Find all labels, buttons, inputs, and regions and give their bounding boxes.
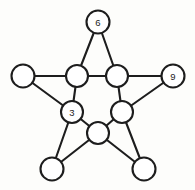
graph-node-inner-right[interactable]	[111, 101, 133, 123]
node-circle[interactable]	[133, 158, 156, 181]
node-circle[interactable]	[41, 158, 64, 181]
star-puzzle-diagram: 693	[0, 0, 195, 190]
node-layer: 693	[12, 11, 185, 181]
graph-node-outer-right[interactable]: 9	[162, 65, 185, 88]
node-circle[interactable]	[87, 122, 109, 144]
node-circle[interactable]	[111, 101, 133, 123]
graph-node-outer-left[interactable]	[12, 65, 35, 88]
node-label: 6	[95, 17, 100, 28]
graph-node-inner-top-right[interactable]	[106, 65, 128, 87]
edge-layer	[23, 22, 173, 169]
node-circle[interactable]	[66, 65, 88, 87]
graph-node-inner-top-left[interactable]	[66, 65, 88, 87]
graph-node-inner-bottom[interactable]	[87, 122, 109, 144]
node-label: 9	[170, 71, 175, 82]
graph-node-outer-top[interactable]: 6	[87, 11, 110, 34]
graph-node-outer-bottom-right[interactable]	[133, 158, 156, 181]
graph-node-outer-bottom-left[interactable]	[41, 158, 64, 181]
node-circle[interactable]	[106, 65, 128, 87]
node-label: 3	[69, 107, 74, 118]
star-graph-canvas: 693	[0, 0, 195, 190]
graph-node-inner-left[interactable]: 3	[61, 101, 83, 123]
node-circle[interactable]	[12, 65, 35, 88]
